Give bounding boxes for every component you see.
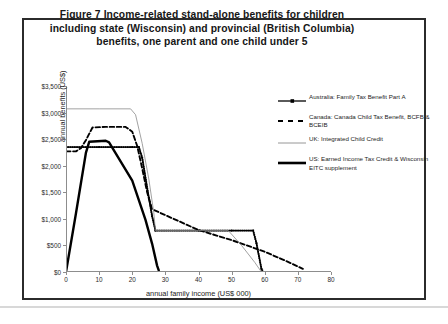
- legend-swatch-icon: [278, 97, 306, 105]
- series-marker: [143, 166, 145, 168]
- series-marker: [258, 255, 260, 257]
- legend-item-0[interactable]: Australia: Family Tax Benefit Part A: [278, 93, 430, 107]
- legend-item-2[interactable]: UK: Integrated Child Credit: [278, 135, 430, 149]
- series-marker: [67, 146, 69, 148]
- x-tick-mark: [99, 272, 100, 275]
- figure-title: Figure 7 Income-related stand-alone bene…: [30, 8, 374, 49]
- y-tick-label: $500: [17, 242, 61, 249]
- y-tick-label: $1,500: [17, 189, 61, 196]
- series-line-2: [66, 109, 261, 272]
- series-marker: [253, 234, 255, 236]
- legend-item-1[interactable]: Canada: Canada Child Tax Benefit, BCFB &…: [278, 113, 430, 129]
- figure-title-line-3: benefits, one parent and one child under…: [30, 35, 374, 49]
- series-marker: [260, 266, 262, 268]
- x-tick-label: 10: [86, 276, 112, 283]
- x-tick-label: 60: [252, 276, 278, 283]
- x-tick-mark: [331, 272, 332, 275]
- x-axis-title: annual family income (US$ 000): [66, 289, 331, 298]
- series-marker: [258, 257, 260, 259]
- series-marker: [94, 146, 96, 148]
- series-line-1: [66, 127, 303, 269]
- x-tick-mark: [199, 272, 200, 275]
- series-marker: [259, 259, 261, 261]
- y-tick-label: $3,500: [17, 83, 61, 90]
- figure-page: Figure 7 Income-related stand-alone bene…: [0, 0, 448, 324]
- series-marker: [150, 211, 152, 213]
- y-tick-label: $0: [17, 269, 61, 276]
- legend-label: Canada: Canada Child Tax Benefit, BCFB &…: [309, 113, 430, 129]
- series-marker: [256, 242, 258, 244]
- series-marker: [96, 146, 98, 148]
- y-tick-label: $3,000: [17, 109, 61, 116]
- x-tick-label: 20: [119, 276, 145, 283]
- y-tick-mark: [63, 219, 66, 220]
- series-line-3: [66, 141, 159, 272]
- series-marker: [261, 268, 263, 270]
- series-marker: [239, 230, 241, 232]
- x-tick-label: 30: [152, 276, 178, 283]
- series-marker: [151, 215, 153, 217]
- series-marker: [114, 146, 116, 148]
- x-tick-label: 50: [219, 276, 245, 283]
- x-tick-mark: [298, 272, 299, 275]
- series-marker: [107, 146, 109, 148]
- x-tick-mark: [165, 272, 166, 275]
- series-marker: [141, 155, 143, 157]
- series-marker: [257, 251, 259, 253]
- x-tick-mark: [132, 272, 133, 275]
- series-marker: [254, 238, 256, 240]
- series-marker: [120, 146, 122, 148]
- series-marker: [142, 159, 144, 161]
- series-marker: [258, 253, 260, 255]
- x-tick-label: 40: [186, 276, 212, 283]
- x-tick-label: 70: [285, 276, 311, 283]
- x-tick-mark: [265, 272, 266, 275]
- figure-title-line-1: Figure 7 Income-related stand-alone bene…: [30, 8, 374, 22]
- series-marker: [233, 230, 235, 232]
- series-marker: [151, 213, 153, 215]
- series-marker: [142, 161, 144, 163]
- series-marker: [241, 230, 243, 232]
- series-marker: [253, 232, 255, 234]
- series-marker: [72, 146, 74, 148]
- series-marker: [141, 157, 143, 159]
- series-marker: [144, 175, 146, 177]
- series-marker: [131, 146, 133, 148]
- series-marker: [125, 146, 127, 148]
- series-marker: [103, 146, 105, 148]
- series-marker: [237, 230, 239, 232]
- legend-label: Australia: Family Tax Benefit Part A: [309, 93, 430, 101]
- series-marker: [153, 221, 155, 223]
- series-marker: [143, 168, 145, 170]
- series-marker: [92, 146, 94, 148]
- legend-swatch-icon: [278, 117, 306, 125]
- legend-item-3[interactable]: US: Earned Income Tax Credit & Wisconsin…: [278, 155, 430, 171]
- series-marker: [129, 146, 131, 148]
- y-tick-label: $2,000: [17, 162, 61, 169]
- y-axis-title: annual benefits (US$): [58, 71, 67, 143]
- legend-label: US: Earned Income Tax Credit & Wisconsin…: [309, 155, 430, 171]
- series-marker: [139, 150, 141, 152]
- legend-label: UK: Integrated Child Credit: [309, 135, 430, 143]
- series-marker: [89, 146, 91, 148]
- y-tick-mark: [63, 166, 66, 167]
- x-tick-label: 0: [53, 276, 79, 283]
- series-marker: [256, 245, 258, 247]
- series-marker: [259, 262, 261, 264]
- series-marker: [100, 146, 102, 148]
- legend-swatch-icon: [278, 159, 306, 167]
- series-marker: [74, 146, 76, 148]
- series-marker: [260, 264, 262, 266]
- series-marker: [250, 230, 252, 232]
- series-marker: [248, 230, 250, 232]
- series-marker: [123, 146, 125, 148]
- series-marker: [98, 146, 100, 148]
- x-tick-mark: [66, 272, 67, 275]
- series-marker: [254, 236, 256, 238]
- series-marker: [70, 146, 72, 148]
- x-tick-label: 80: [318, 276, 344, 283]
- y-tick-label: $2,500: [17, 136, 61, 143]
- series-marker: [252, 230, 254, 232]
- figure-title-line-2: including state (Wisconsin) and provinci…: [30, 22, 374, 36]
- chart-legend: Australia: Family Tax Benefit Part ACana…: [278, 93, 430, 178]
